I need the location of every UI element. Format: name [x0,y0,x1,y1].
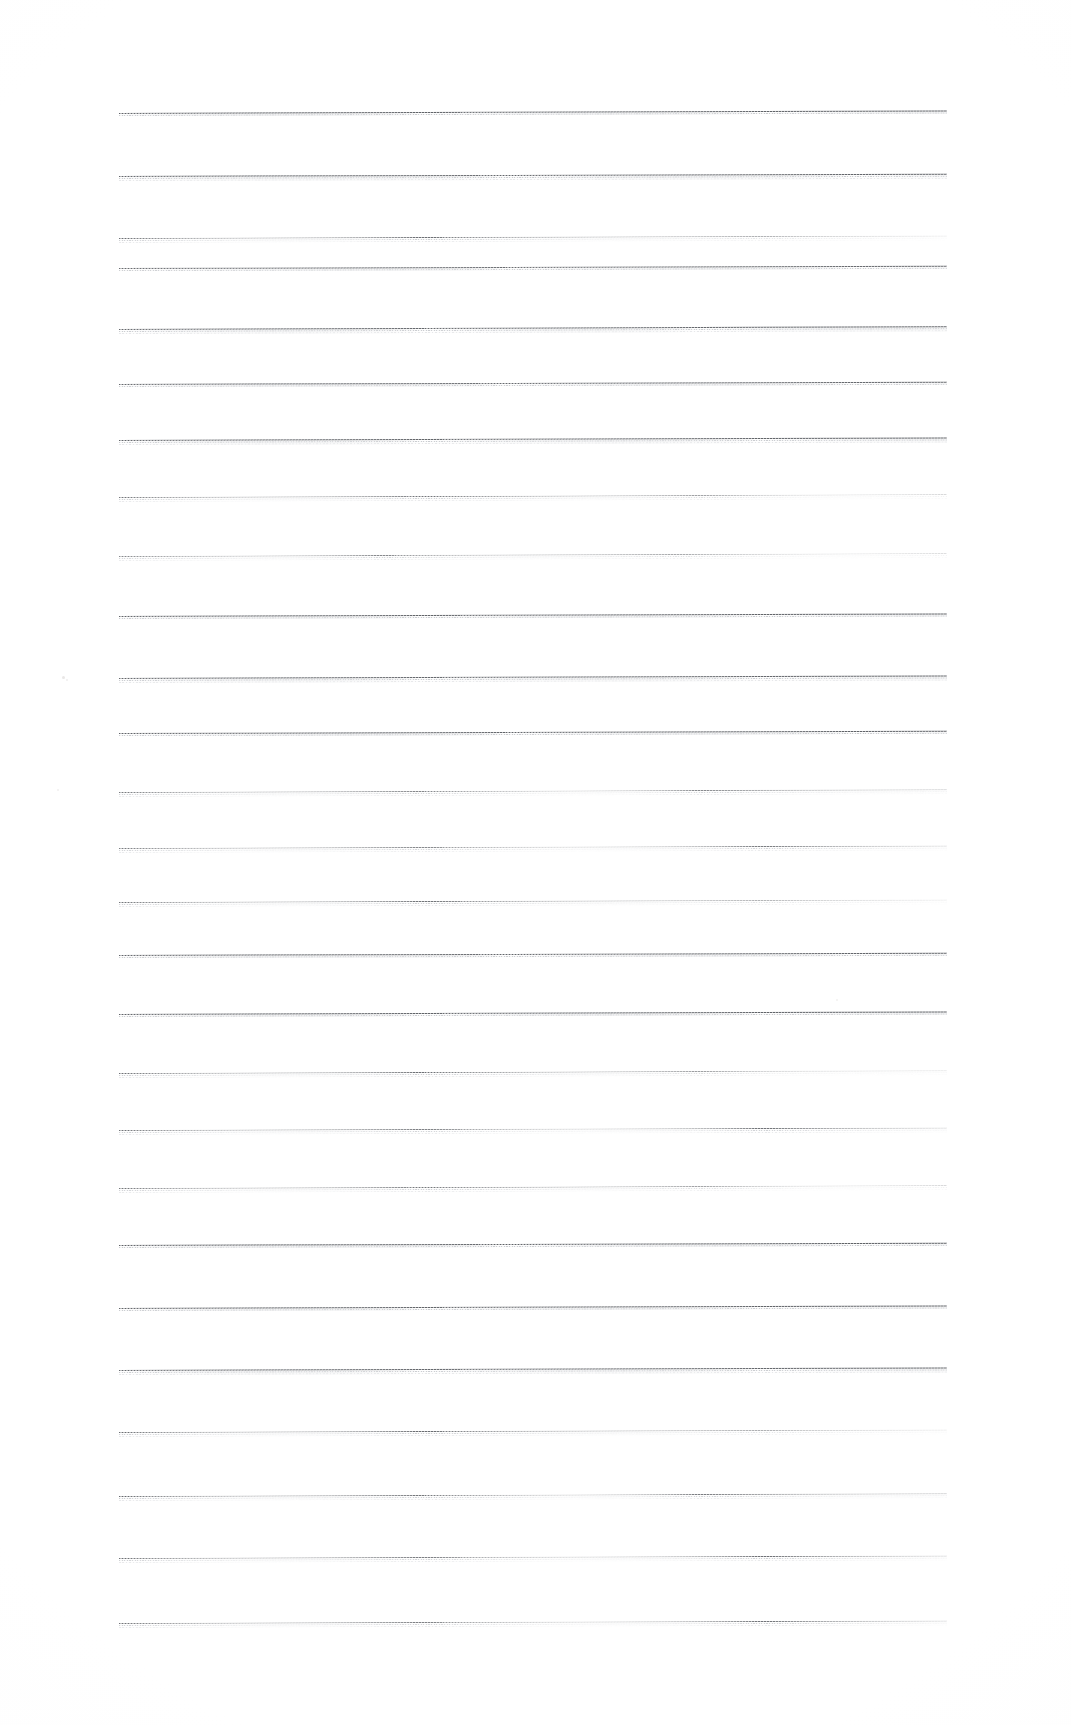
scan-speck [62,676,65,679]
rule-line-echo-faint [119,330,947,334]
paper-surface [0,0,1071,1725]
rule-line-echo-faint [119,557,947,561]
rule-line-echo-faint [119,849,947,852]
rule-line-echo [119,1495,947,1499]
rule-line-echo [119,902,947,906]
rule-line [119,953,947,955]
rule-line [119,326,947,329]
rule-line [119,235,947,238]
scanned-page [0,0,1071,1725]
rule-line-stroke [119,789,947,793]
rule-line-stroke [119,1305,947,1309]
rule-line-echo [119,955,947,958]
rule-line-echo [119,733,947,736]
rule-line-stroke [119,1493,947,1497]
rule-line-echo [119,555,947,559]
rule-line-echo [119,1432,947,1436]
rule-line-echo [119,1370,947,1374]
rule-line-stroke [119,1620,947,1624]
rule-line-echo [119,791,947,795]
rule-line-echo [119,1558,947,1562]
rule-line-stroke [119,382,947,385]
rule-line [119,1243,947,1245]
rule-line-echo [119,328,947,332]
rule-line-stroke [119,326,947,330]
rule-line-echo [119,384,947,387]
rule-line-stroke [119,731,947,734]
rule-line [119,1011,947,1014]
rule-line-stroke [119,174,947,177]
rule-line [119,731,947,733]
rule-line-echo-faint [119,1497,947,1501]
rule-line-stroke [119,494,947,498]
rule-line-stroke [119,1070,947,1074]
rule-line [119,1493,947,1496]
rule-line-echo-faint [119,679,947,682]
rule-line-echo-faint [119,904,947,907]
rule-line [119,437,947,440]
rule-line-echo-faint [119,178,947,181]
rule-line-echo-faint [119,1132,947,1135]
rule-line [119,174,947,176]
rule-line-echo [119,176,947,179]
scan-speck [66,679,68,681]
rule-line-echo [119,1130,947,1134]
rule-line [119,1305,947,1308]
rule-line-echo [119,1308,947,1312]
rule-line-echo [119,1072,947,1076]
rule-line [119,1556,947,1558]
rule-line [119,111,947,113]
rule-line-echo-faint [119,793,947,797]
rule-line-echo [119,1187,947,1191]
rule-line-echo [119,238,947,242]
scan-speck [57,789,59,791]
rule-line [119,1620,947,1623]
rule-line-stroke [119,845,947,849]
rule-line-stroke [119,953,947,956]
rule-line-stroke [119,614,947,618]
rule-line [119,675,947,678]
rule-line-echo-faint [119,1433,947,1436]
rule-line-stroke [119,1243,947,1246]
rule-line [119,614,947,616]
rule-line-echo-faint [119,1372,947,1375]
rule-line-echo [119,440,947,444]
rule-line-echo-faint [119,441,947,444]
rule-line-echo-faint [119,239,947,242]
rule-line-echo [119,1623,947,1627]
rule-line [119,1070,947,1073]
rule-line-stroke [119,675,947,679]
rule-line-echo [119,848,947,852]
rule-line-echo [119,678,947,682]
rule-line [119,1429,947,1432]
rule-line [119,845,947,848]
rule-line [119,1368,947,1370]
rule-line-echo [119,1245,947,1248]
scan-speck [836,999,838,1001]
rule-line [119,900,947,902]
rule-line [119,789,947,792]
rule-line [119,266,947,268]
rule-line-stroke [119,437,947,441]
rule-line-stroke [119,900,947,904]
rule-line [119,494,947,497]
rule-line-echo-faint [119,1624,947,1627]
rule-line-echo-faint [119,1189,947,1193]
rule-line-stroke [119,553,947,557]
rule-line-stroke [119,1011,947,1015]
rule-line-stroke [119,1368,947,1372]
rule-line-stroke [119,1556,947,1560]
rule-line-stroke [119,1185,947,1189]
rule-line [119,382,947,384]
rule-line-echo [119,496,947,500]
rule-line-stroke [119,1429,947,1433]
rule-line [119,1128,947,1130]
rule-line-echo [119,268,947,271]
rule-line-echo-faint [119,1074,947,1078]
rule-line-stroke [119,111,947,115]
rule-line-echo-faint [119,1560,947,1563]
rule-line-stroke [119,1128,947,1132]
rule-line [119,1185,947,1188]
rule-line-echo [119,113,947,117]
rule-line-echo [119,616,947,620]
